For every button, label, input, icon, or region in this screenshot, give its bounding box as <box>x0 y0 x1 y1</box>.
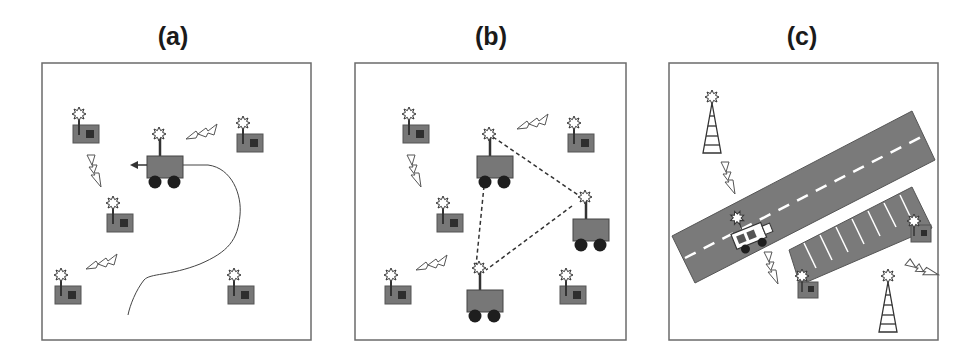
panel-c <box>669 63 939 340</box>
panel-a-frame <box>42 63 311 340</box>
panel-b <box>355 63 626 340</box>
panel-a <box>42 63 311 340</box>
